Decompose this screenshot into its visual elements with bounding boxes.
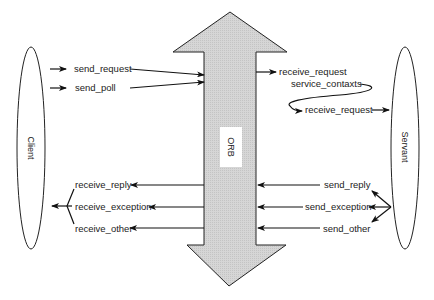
label-service-contexts: service_contaxts	[291, 78, 362, 89]
label-send-request: send_request	[74, 63, 132, 74]
label-send-other: send_other	[323, 223, 371, 234]
orb-label: ORB	[226, 133, 236, 161]
label-receive-other: receive_other	[75, 223, 133, 234]
label-receive-reply: receive_reply	[75, 179, 132, 190]
servant-label: Servant	[400, 126, 410, 168]
diagram-canvas	[0, 0, 434, 300]
label-receive-exception: receive_exception	[75, 201, 152, 212]
client-label: Client	[26, 129, 36, 167]
label-send-exception: send_exception	[305, 201, 372, 212]
label-send-reply: send_reply	[324, 179, 370, 190]
label-send-poll: send_poll	[75, 82, 116, 93]
label-receive-request-2: receive_request	[305, 104, 373, 115]
label-receive-request-1: receive_request	[279, 66, 347, 77]
